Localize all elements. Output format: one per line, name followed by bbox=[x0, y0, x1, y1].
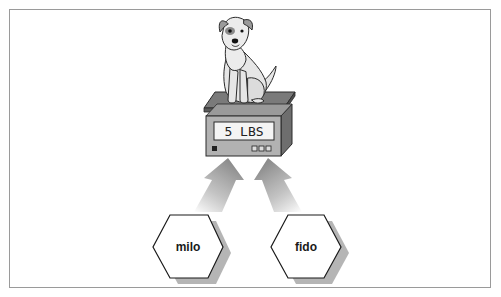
diagram-canvas: 5 LBS bbox=[0, 0, 501, 297]
node-fido-label: fido bbox=[295, 240, 317, 254]
node-milo: milo bbox=[153, 215, 223, 278]
scale-reading: 5 LBS bbox=[224, 124, 263, 139]
scale-button-3 bbox=[266, 146, 271, 151]
node-milo-label: milo bbox=[176, 240, 201, 254]
arrow-fido-to-scale bbox=[254, 158, 302, 212]
scale-button-2 bbox=[259, 146, 264, 151]
scale-button-1 bbox=[252, 146, 257, 151]
scale-power-button bbox=[212, 146, 217, 151]
dog-illustration bbox=[219, 17, 276, 103]
arrow-milo-to-scale bbox=[194, 158, 244, 212]
